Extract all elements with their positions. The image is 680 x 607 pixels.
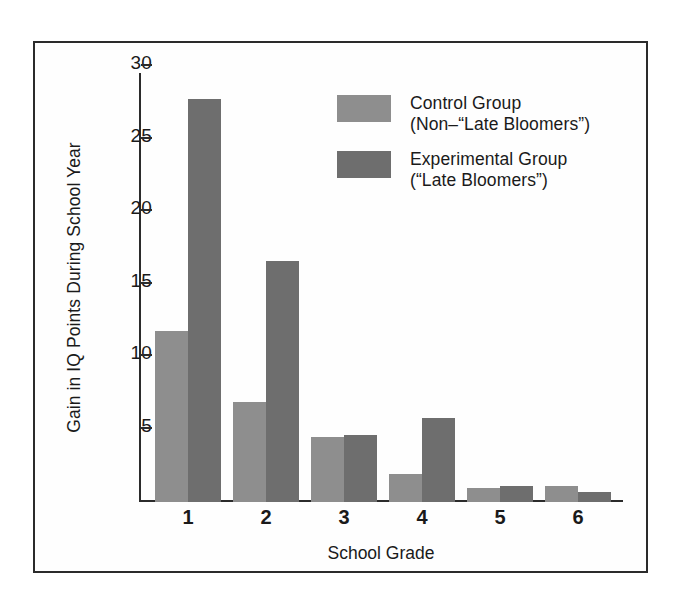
legend-label: Experimental Group(“Late Bloomers”)	[410, 149, 567, 191]
legend-label-line1: Experimental Group	[410, 149, 567, 170]
bar-control-grade-1[interactable]	[155, 331, 188, 502]
x-axis-tick-label-3: 3	[311, 506, 377, 528]
plot-area: 30252015105 Gain in IQ Points During Sch…	[35, 43, 650, 575]
bar-control-grade-2[interactable]	[233, 402, 266, 502]
legend-item-control-group[interactable]: Control Group(Non–“Late Bloomers”)	[337, 93, 627, 135]
legend-label-line2: (“Late Bloomers”)	[410, 170, 567, 191]
bar-experimental-grade-1[interactable]	[188, 99, 221, 502]
x-axis-tick-label-5: 5	[467, 506, 533, 528]
legend-label-line2: (Non–“Late Bloomers”)	[410, 114, 590, 135]
x-axis-tick-label-4: 4	[389, 506, 455, 528]
bar-experimental-grade-4[interactable]	[422, 418, 455, 502]
bar-experimental-grade-6[interactable]	[578, 492, 611, 502]
x-axis-tick-label-6: 6	[545, 506, 611, 528]
legend-swatch-icon	[337, 151, 391, 178]
legend-swatch-icon	[337, 95, 391, 122]
legend: Control Group(Non–“Late Bloomers”)Experi…	[337, 93, 627, 205]
bar-experimental-grade-3[interactable]	[344, 435, 377, 502]
bar-experimental-grade-2[interactable]	[266, 261, 299, 502]
legend-label: Control Group(Non–“Late Bloomers”)	[410, 93, 590, 135]
bar-control-grade-5[interactable]	[467, 488, 500, 503]
bar-control-grade-3[interactable]	[311, 437, 344, 502]
bar-group-grade-2	[233, 43, 299, 502]
x-axis-tick-label-1: 1	[155, 506, 221, 528]
y-axis-title: Gain in IQ Points During School Year	[65, 123, 84, 453]
x-axis-title: School Grade	[139, 543, 623, 563]
bar-control-grade-4[interactable]	[389, 474, 422, 502]
bar-experimental-grade-5[interactable]	[500, 486, 533, 502]
legend-item-experimental-group[interactable]: Experimental Group(“Late Bloomers”)	[337, 149, 627, 191]
x-axis-tick-label-2: 2	[233, 506, 299, 528]
figure-frame: 30252015105 Gain in IQ Points During Sch…	[33, 41, 648, 573]
legend-label-line1: Control Group	[410, 93, 590, 114]
bar-control-grade-6[interactable]	[545, 486, 578, 502]
bar-group-grade-1	[155, 43, 221, 502]
